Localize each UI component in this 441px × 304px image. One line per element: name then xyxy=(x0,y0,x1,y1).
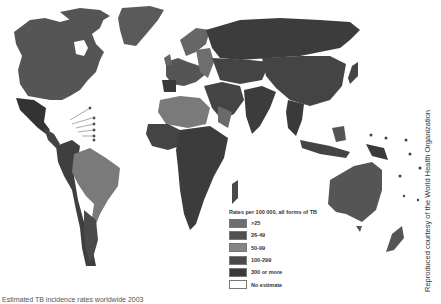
region-west-africa xyxy=(146,124,180,150)
region-southeast-asia xyxy=(286,100,304,136)
legend-label: 300 or more xyxy=(251,269,282,275)
region-central-america xyxy=(44,128,60,148)
legend-swatch xyxy=(229,219,247,228)
region-uk xyxy=(164,54,172,66)
legend-label: >25 xyxy=(251,220,260,226)
legend-item: >25 xyxy=(229,217,359,229)
region-borneo xyxy=(332,126,346,142)
region-japan xyxy=(348,62,358,84)
region-canada-arctic xyxy=(60,8,110,22)
region-india xyxy=(244,86,276,134)
legend-item: 100-299 xyxy=(229,254,359,266)
legend-item: No estimate xyxy=(229,278,359,290)
region-north-africa xyxy=(158,96,210,128)
legend-label: 50-99 xyxy=(251,245,265,251)
credit-text: Reproduced courtesy of the World Health … xyxy=(423,110,432,292)
region-madagascar xyxy=(232,180,238,204)
region-north-america xyxy=(14,14,105,100)
legend-swatch xyxy=(229,268,247,277)
legend-swatch xyxy=(229,256,247,265)
legend-item: 50-99 xyxy=(229,242,359,254)
legend-item: 26-49 xyxy=(229,229,359,241)
region-china xyxy=(262,56,346,106)
map-caption: Estimated TB incidence rates worldwide 2… xyxy=(2,296,144,303)
legend-swatch xyxy=(229,231,247,240)
caribbean-callouts xyxy=(70,107,95,141)
region-greenland xyxy=(118,6,164,46)
region-papua xyxy=(366,144,388,160)
region-new-zealand xyxy=(386,226,404,252)
world-map xyxy=(0,0,441,304)
legend-title: Rates per 100 000, all forms of TB xyxy=(229,209,359,215)
legend-swatch xyxy=(229,243,247,252)
legend-item: 300 or more xyxy=(229,266,359,278)
region-central-africa xyxy=(176,126,228,230)
region-central-asia xyxy=(212,58,270,84)
map-legend: Rates per 100 000, all forms of TB >25 2… xyxy=(229,209,359,291)
legend-label: No estimate xyxy=(251,282,282,288)
region-indonesia xyxy=(300,140,350,158)
region-iberia xyxy=(162,80,176,92)
legend-label: 100-299 xyxy=(251,257,271,263)
region-russia xyxy=(206,18,360,60)
legend-label: 26-49 xyxy=(251,232,265,238)
legend-swatch xyxy=(229,280,247,289)
